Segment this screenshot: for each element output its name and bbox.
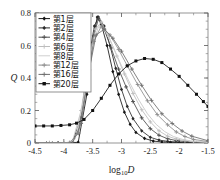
- legend-label: 第2层: [53, 23, 74, 33]
- data-point: [202, 100, 205, 103]
- x-tick-label: -1.5: [201, 146, 214, 156]
- data-point: [59, 124, 62, 127]
- data-point: [117, 72, 120, 75]
- data-point: [160, 61, 163, 64]
- legend-label: 第8层: [53, 51, 74, 61]
- data-point: [169, 68, 172, 71]
- data-point: [83, 118, 86, 121]
- data-point: [178, 75, 181, 78]
- y-tick-label: 0.8: [20, 8, 31, 18]
- x-tick-label: -3.5: [86, 146, 99, 156]
- data-point: [100, 97, 103, 100]
- data-point: [143, 57, 146, 60]
- data-point: [108, 84, 111, 87]
- data-point: [51, 124, 54, 127]
- figure-container: -4.5-4-3.5-3-2.5-2-1.500.20.40.60.8Qlog1…: [0, 0, 220, 180]
- legend-label: 第1层: [53, 14, 74, 24]
- y-tick-label: 0.2: [20, 106, 31, 116]
- x-axis-label: log10D: [109, 165, 135, 176]
- data-point: [126, 64, 129, 67]
- data-point: [134, 59, 137, 62]
- x-tick-label: -3: [118, 146, 125, 156]
- legend-label: 第4层: [53, 32, 74, 42]
- legend-label: 第16层: [53, 69, 79, 79]
- data-point: [195, 93, 198, 96]
- y-tick-label: 0.4: [20, 73, 31, 83]
- chart-canvas: -4.5-4-3.5-3-2.5-2-1.500.20.40.60.8Qlog1…: [0, 0, 220, 180]
- legend-label: 第20层: [53, 79, 79, 89]
- legend-label: 第6层: [53, 42, 74, 52]
- data-point: [75, 122, 78, 125]
- data-point: [42, 124, 45, 127]
- x-tick-label: -2.5: [144, 146, 157, 156]
- data-point: [207, 105, 210, 108]
- x-tick-label: -2: [176, 146, 183, 156]
- y-tick-label: 0: [27, 138, 31, 148]
- data-point: [43, 82, 46, 85]
- x-tick-label: -4: [60, 146, 68, 156]
- data-point: [186, 84, 189, 87]
- data-point: [152, 58, 155, 61]
- data-point: [91, 109, 94, 112]
- legend-label: 第12层: [53, 60, 79, 70]
- data-point: [68, 123, 71, 126]
- y-tick-label: 0.6: [20, 41, 31, 51]
- data-point: [34, 124, 37, 127]
- y-axis-label: Q: [11, 73, 18, 83]
